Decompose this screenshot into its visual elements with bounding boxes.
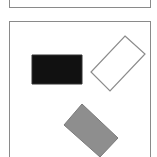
shapes-canvas	[0, 0, 157, 157]
outlined-rectangle	[91, 36, 145, 91]
gray-rectangle	[64, 104, 118, 157]
black-rectangle	[32, 55, 82, 84]
